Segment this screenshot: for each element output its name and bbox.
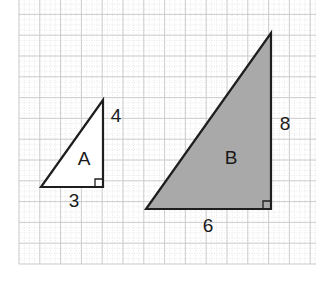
triangle-a-base-length: 3 [69,190,80,211]
triangle-a-height-length: 4 [111,105,122,126]
triangle-b-base-length: 6 [203,215,214,236]
triangle-a-label: A [78,148,91,169]
triangle-b-label: B [225,147,238,168]
similar-triangles-diagram: B 6 8 A 3 4 [0,0,330,288]
triangle-b-height-length: 8 [280,113,291,134]
triangle-b: B 6 8 [146,33,290,236]
